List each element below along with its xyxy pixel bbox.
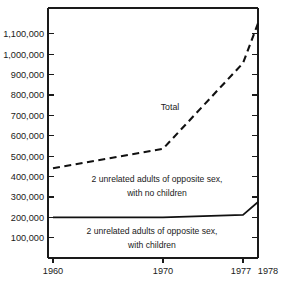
annotation-total-label: Total (161, 102, 180, 112)
y-tick-label-300000: 300,000 (11, 192, 44, 202)
x-axis-tick-labels: 1960 1970 1977 1978 (43, 266, 278, 276)
annotation-no-children-line2: with no children (126, 188, 187, 198)
y-tick-label-1000000: 1,000,000 (3, 50, 44, 60)
y-axis-ticks (48, 34, 54, 238)
y-tick-label-1100000: 1,100,000 (3, 29, 44, 39)
y-tick-label-900000: 900,000 (11, 70, 44, 80)
y-axis-tick-labels: 1,100,000 1,000,000 900,000 800,000 700,… (3, 29, 44, 243)
x-tick-label-1970: 1970 (153, 266, 173, 276)
annotation-with-children-line1: 2 unrelated adults of opposite sex, (87, 226, 218, 236)
x-axis-ticks (53, 258, 243, 263)
x-tick-label-1977: 1977 (231, 266, 251, 276)
y-tick-label-500000: 500,000 (11, 152, 44, 162)
y-tick-label-200000: 200,000 (11, 213, 44, 223)
y-tick-label-600000: 600,000 (11, 131, 44, 141)
annotation-with-children-line2: with children (127, 240, 176, 250)
y-tick-label-100000: 100,000 (11, 233, 44, 243)
y-tick-label-700000: 700,000 (11, 111, 44, 121)
x-tick-label-1978: 1978 (258, 266, 278, 276)
annotation-no-children-line1: 2 unrelated adults of opposite sex, (92, 174, 223, 184)
y-tick-label-400000: 400,000 (11, 172, 44, 182)
x-tick-label-1960: 1960 (43, 266, 63, 276)
y-tick-label-800000: 800,000 (11, 90, 44, 100)
line-chart: 1,100,000 1,000,000 900,000 800,000 700,… (0, 0, 282, 282)
series-total-line (53, 23, 258, 168)
chart-container: 1,100,000 1,000,000 900,000 800,000 700,… (0, 0, 282, 282)
series-with-children-line (53, 202, 258, 217)
